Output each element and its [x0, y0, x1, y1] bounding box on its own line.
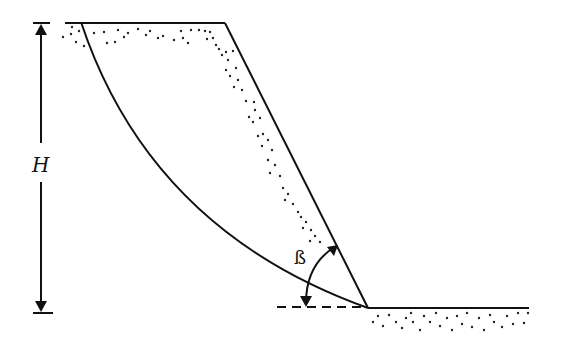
soil-stipple	[225, 67, 321, 243]
height-label: H	[31, 153, 50, 177]
soil-stipple	[372, 312, 529, 331]
arrow-up-icon	[35, 24, 47, 35]
slope-diagram: H ß	[0, 0, 567, 349]
arrow-head-icon	[300, 296, 312, 307]
angle-label: ß	[294, 247, 306, 268]
circular-failure-surface	[81, 22, 368, 308]
arrow-down-icon	[35, 301, 47, 312]
